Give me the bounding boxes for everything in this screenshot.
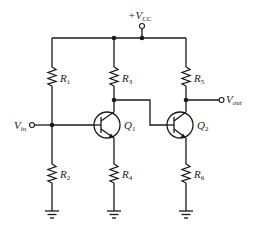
r1-label: R1 (59, 72, 71, 86)
ground-symbol (107, 211, 121, 218)
r2-label: R2 (59, 168, 71, 182)
circuit-diagram: +VCC R1 Vin R2 R3 (0, 0, 253, 231)
ground-symbol (45, 211, 59, 218)
q2-label: Q2 (197, 119, 209, 133)
resistor-r6: R6 (182, 138, 205, 211)
vcc-label: +VCC (128, 9, 152, 23)
ground-symbol (179, 211, 193, 218)
junction-dot (140, 36, 145, 41)
resistor-r1: R1 (48, 38, 71, 125)
interstage-wire (114, 100, 168, 125)
input-terminal: Vin (14, 119, 95, 133)
q1-label: Q1 (124, 119, 136, 133)
r5-label: R5 (193, 72, 205, 86)
transistor-q2: Q2 (167, 112, 209, 138)
r4-label: R4 (121, 168, 133, 182)
vin-label: Vin (14, 119, 27, 133)
resistor-r2: R2 (48, 125, 71, 211)
vcc-terminal (140, 24, 145, 29)
output-terminal: Vout (186, 93, 243, 107)
vout-label: Vout (226, 93, 243, 107)
vcc-supply: +VCC (128, 9, 152, 38)
r3-label: R3 (121, 72, 133, 86)
transistor-q1: Q1 (94, 112, 136, 138)
resistor-r4: R4 (110, 138, 133, 211)
r6-label: R6 (193, 168, 205, 182)
